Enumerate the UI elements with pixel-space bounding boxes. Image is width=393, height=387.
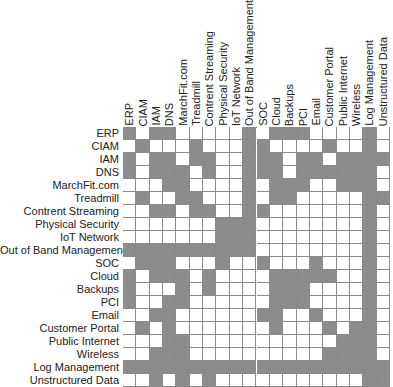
matrix-cell [257, 231, 270, 244]
matrix-cell [363, 179, 376, 192]
matrix-cell [310, 322, 323, 335]
matrix-cell [270, 244, 283, 257]
matrix-cell [363, 361, 376, 374]
matrix-cell [163, 348, 176, 361]
matrix-cell [323, 244, 336, 257]
matrix-cell [216, 179, 229, 192]
matrix-cell [337, 309, 350, 322]
row-label: DNS [0, 166, 119, 179]
matrix-cell [323, 322, 336, 335]
matrix-cell [203, 361, 216, 374]
matrix-cell [163, 166, 176, 179]
row-label: Treadmill [0, 192, 119, 205]
matrix-cell [230, 374, 243, 387]
matrix-cell [190, 192, 203, 205]
column-label: Physical Security [216, 0, 229, 126]
matrix-cell [190, 296, 203, 309]
matrix-cell [363, 192, 376, 205]
matrix-cell [230, 296, 243, 309]
matrix-cell [323, 374, 336, 387]
matrix-cell [363, 244, 376, 257]
matrix-cell [350, 218, 363, 231]
matrix-cell [216, 335, 229, 348]
row-label: Email [0, 309, 119, 322]
matrix-cell [297, 192, 310, 205]
column-label: DNS [163, 0, 176, 126]
matrix-cell [363, 335, 376, 348]
matrix-cell [243, 166, 256, 179]
matrix-cell [257, 205, 270, 218]
matrix-cell [150, 244, 163, 257]
matrix-cell [150, 257, 163, 270]
matrix-cell [310, 231, 323, 244]
matrix-cell [337, 348, 350, 361]
matrix-cell [176, 335, 189, 348]
matrix-cell [230, 140, 243, 153]
matrix-cell [337, 127, 350, 140]
matrix-cell [377, 309, 390, 322]
matrix-cell [257, 374, 270, 387]
row-label: Wireless [0, 348, 119, 361]
matrix-cell [363, 257, 376, 270]
column-label-text: Wireless [350, 84, 363, 126]
matrix-cell [176, 322, 189, 335]
matrix-cell [123, 244, 136, 257]
matrix-cell [243, 348, 256, 361]
matrix-cell [123, 296, 136, 309]
matrix-cell [310, 283, 323, 296]
matrix-cell [323, 153, 336, 166]
matrix-cell [230, 348, 243, 361]
matrix-cell [270, 283, 283, 296]
matrix-cell [270, 348, 283, 361]
matrix-cell [297, 244, 310, 257]
matrix-cell [310, 257, 323, 270]
matrix-cell [136, 218, 149, 231]
matrix-cell [150, 322, 163, 335]
matrix-cell [310, 335, 323, 348]
column-label-text: Backups [283, 84, 296, 126]
matrix-cell [350, 283, 363, 296]
matrix-cell [243, 374, 256, 387]
matrix-cell [243, 361, 256, 374]
matrix-cell [337, 231, 350, 244]
matrix-cell [216, 322, 229, 335]
matrix-cell [363, 309, 376, 322]
matrix-cell [297, 348, 310, 361]
matrix-cell [350, 153, 363, 166]
matrix-cell [190, 218, 203, 231]
matrix-cell [350, 140, 363, 153]
matrix-cell [163, 257, 176, 270]
matrix-cell [216, 348, 229, 361]
matrix-cell [323, 257, 336, 270]
matrix-cell [270, 218, 283, 231]
matrix-cell [350, 244, 363, 257]
matrix-cell [176, 218, 189, 231]
matrix-cell [216, 244, 229, 257]
matrix-cell [163, 127, 176, 140]
matrix-cell [257, 140, 270, 153]
matrix-cell [176, 205, 189, 218]
matrix-cell [163, 270, 176, 283]
row-label: IAM [0, 153, 119, 166]
matrix-cell [377, 153, 390, 166]
column-label-text: Email [310, 98, 323, 126]
matrix-cell [123, 322, 136, 335]
matrix-cell [350, 296, 363, 309]
matrix-cell [310, 244, 323, 257]
matrix-cell [243, 205, 256, 218]
matrix-cell [310, 348, 323, 361]
matrix-cell [150, 335, 163, 348]
matrix-cell [176, 244, 189, 257]
matrix-cell [123, 348, 136, 361]
matrix-cell [270, 257, 283, 270]
matrix-cell [216, 218, 229, 231]
matrix-cell [323, 231, 336, 244]
matrix-cell [243, 153, 256, 166]
matrix-cell [297, 140, 310, 153]
dependency-matrix: ERPCIAMIAMDNSMarchFit.comTreadmillContre… [0, 0, 393, 387]
matrix-cell [350, 374, 363, 387]
matrix-cell [350, 192, 363, 205]
matrix-cell [123, 231, 136, 244]
matrix-cell [257, 166, 270, 179]
matrix-cell [337, 179, 350, 192]
